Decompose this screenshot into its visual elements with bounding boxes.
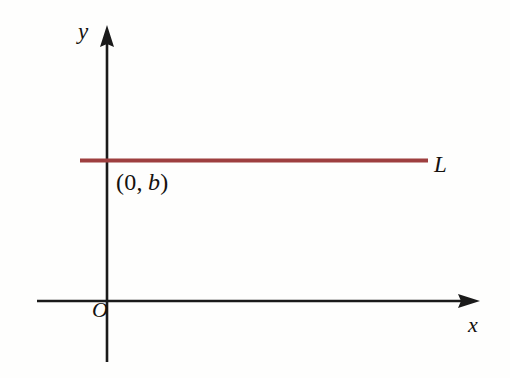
figure-canvas [0,0,510,378]
y-intercept-label: (0, b) [116,170,169,194]
paren-close: ) [160,169,168,195]
line-L-label: L [434,153,447,176]
x-axis-label: x [468,314,478,336]
origin-label: O [92,299,108,321]
y-axis-label: y [78,20,88,43]
y-axis-arrowhead-icon [100,25,114,47]
x-axis-arrowhead-icon [458,294,480,308]
coord-y-value: b [148,169,160,195]
coord-comma: , [137,169,143,195]
coordinate-plane-figure: y x O L (0, b) [0,0,510,378]
coord-x-value: 0 [124,169,136,195]
